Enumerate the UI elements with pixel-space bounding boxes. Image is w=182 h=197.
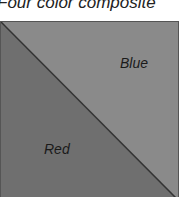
blue-label: Blue xyxy=(120,55,148,71)
red-label: Red xyxy=(44,141,70,157)
composite-diagram xyxy=(0,21,179,197)
figure-title: Four color composite xyxy=(0,0,156,13)
composite-square xyxy=(0,21,179,197)
